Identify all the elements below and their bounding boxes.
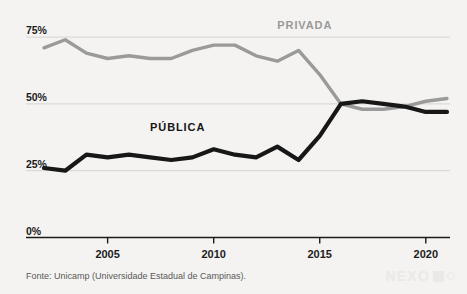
y-axis-tick-label: 50% — [26, 91, 47, 103]
nexo-watermark: NEXO — [386, 268, 455, 284]
nexo-circle-icon — [447, 272, 455, 280]
series-line-privada — [44, 40, 447, 109]
data-series-group — [44, 40, 447, 171]
y-axis-tick-label: 25% — [26, 158, 47, 170]
x-axis-tick-label: 2010 — [201, 248, 225, 260]
nexo-square-icon — [433, 271, 444, 282]
x-axis-ticks — [108, 238, 426, 244]
line-chart-canvas — [0, 0, 467, 294]
series-label-privada: PRIVADA — [277, 19, 332, 31]
series-label-publica: PÚBLICA — [150, 121, 205, 133]
chart-container: 0%25%50%75% 2005201020152020 PRIVADA PÚB… — [0, 0, 467, 294]
x-axis-tick-label: 2015 — [307, 248, 331, 260]
x-axis-tick-label: 2005 — [95, 248, 119, 260]
source-note: Fonte: Unicamp (Universidade Estadual de… — [26, 271, 246, 281]
y-axis-tick-label: 75% — [26, 24, 47, 36]
watermark-brand-text: NEXO — [386, 268, 430, 284]
series-line-pblica — [44, 101, 447, 170]
y-axis-tick-label: 0% — [26, 225, 41, 237]
x-axis-tick-label: 2020 — [414, 248, 438, 260]
